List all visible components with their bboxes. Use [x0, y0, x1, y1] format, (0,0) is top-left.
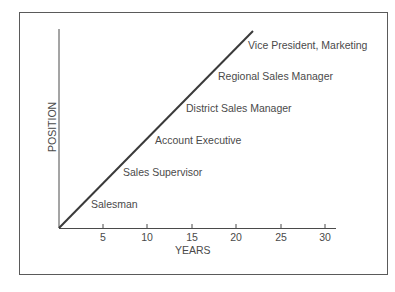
x-tick-label: 25 — [275, 231, 287, 243]
position-label-salesman: Salesman — [91, 198, 138, 210]
position-label-regional-sales-manager: Regional Sales Manager — [218, 70, 333, 82]
position-label-vice-president-marketing: Vice President, Marketing — [248, 39, 367, 51]
position-label-account-executive: Account Executive — [155, 134, 241, 146]
position-label-district-sales-manager: District Sales Manager — [186, 102, 292, 114]
x-axis-label: YEARS — [175, 244, 211, 256]
career-line — [59, 31, 253, 228]
x-ticks — [103, 224, 325, 228]
x-tick-label: 30 — [319, 231, 331, 243]
x-tick-label: 10 — [141, 231, 153, 243]
x-tick-label: 20 — [230, 231, 242, 243]
y-axis-label: POSITION — [46, 102, 58, 152]
position-label-sales-supervisor: Sales Supervisor — [123, 166, 202, 178]
x-tick-label: 15 — [186, 231, 198, 243]
x-tick-label: 5 — [100, 231, 106, 243]
